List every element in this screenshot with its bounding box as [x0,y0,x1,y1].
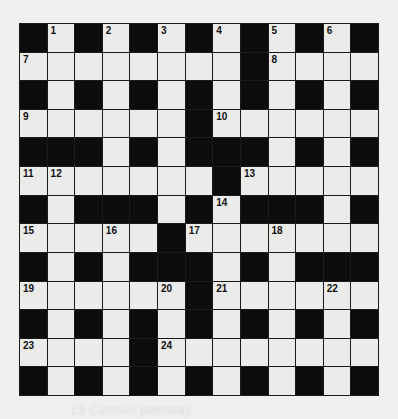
answer-cell[interactable]: 2 [103,24,130,52]
answer-cell[interactable] [324,339,351,367]
answer-cell[interactable]: 22 [324,282,351,310]
answer-cell[interactable] [269,310,296,338]
answer-cell[interactable] [351,282,378,310]
answer-cell[interactable] [48,53,75,81]
answer-cell[interactable] [324,310,351,338]
answer-cell[interactable] [324,53,351,81]
answer-cell[interactable] [351,224,378,252]
answer-cell[interactable] [213,253,240,281]
answer-cell[interactable]: 9 [20,110,47,138]
answer-cell[interactable] [75,110,102,138]
answer-cell[interactable]: 23 [20,339,47,367]
answer-cell[interactable] [48,339,75,367]
answer-cell[interactable] [213,81,240,109]
answer-cell[interactable] [48,367,75,395]
answer-cell[interactable] [269,110,296,138]
answer-cell[interactable] [158,110,185,138]
answer-cell[interactable] [186,339,213,367]
answer-cell[interactable] [158,138,185,166]
answer-cell[interactable] [48,224,75,252]
answer-cell[interactable] [103,81,130,109]
answer-cell[interactable] [324,196,351,224]
answer-cell[interactable] [269,367,296,395]
answer-cell[interactable] [296,339,323,367]
answer-cell[interactable]: 8 [269,53,296,81]
answer-cell[interactable] [48,310,75,338]
answer-cell[interactable] [296,110,323,138]
answer-cell[interactable] [269,339,296,367]
answer-cell[interactable] [48,253,75,281]
answer-cell[interactable] [103,138,130,166]
answer-cell[interactable] [213,53,240,81]
answer-cell[interactable] [213,224,240,252]
answer-cell[interactable] [130,224,157,252]
answer-cell[interactable] [158,81,185,109]
answer-cell[interactable] [103,282,130,310]
answer-cell[interactable] [158,367,185,395]
answer-cell[interactable] [241,224,268,252]
answer-cell[interactable] [324,167,351,195]
answer-cell[interactable] [296,282,323,310]
answer-cell[interactable] [296,224,323,252]
answer-cell[interactable] [241,110,268,138]
answer-cell[interactable] [103,53,130,81]
answer-cell[interactable]: 16 [103,224,130,252]
answer-cell[interactable] [186,167,213,195]
answer-cell[interactable] [296,53,323,81]
answer-cell[interactable]: 14 [213,196,240,224]
answer-cell[interactable]: 6 [324,24,351,52]
answer-cell[interactable] [158,167,185,195]
answer-cell[interactable] [75,339,102,367]
answer-cell[interactable] [351,167,378,195]
answer-cell[interactable] [213,339,240,367]
answer-cell[interactable]: 11 [20,167,47,195]
answer-cell[interactable] [241,282,268,310]
answer-cell[interactable] [103,339,130,367]
answer-cell[interactable]: 13 [241,167,268,195]
answer-cell[interactable] [241,339,268,367]
answer-cell[interactable]: 17 [186,224,213,252]
answer-cell[interactable]: 3 [158,24,185,52]
answer-cell[interactable] [351,339,378,367]
answer-cell[interactable] [103,310,130,338]
answer-cell[interactable] [324,138,351,166]
answer-cell[interactable]: 1 [48,24,75,52]
answer-cell[interactable] [186,53,213,81]
answer-cell[interactable] [75,167,102,195]
answer-cell[interactable] [48,110,75,138]
answer-cell[interactable] [158,310,185,338]
answer-cell[interactable]: 5 [269,24,296,52]
answer-cell[interactable]: 18 [269,224,296,252]
answer-cell[interactable] [130,167,157,195]
answer-cell[interactable]: 4 [213,24,240,52]
answer-cell[interactable] [269,282,296,310]
answer-cell[interactable]: 15 [20,224,47,252]
answer-cell[interactable] [130,282,157,310]
answer-cell[interactable] [324,81,351,109]
answer-cell[interactable] [103,167,130,195]
answer-cell[interactable] [158,53,185,81]
answer-cell[interactable] [269,253,296,281]
answer-cell[interactable]: 7 [20,53,47,81]
answer-cell[interactable] [103,110,130,138]
answer-cell[interactable]: 21 [213,282,240,310]
answer-cell[interactable] [75,53,102,81]
answer-cell[interactable] [75,224,102,252]
answer-cell[interactable] [48,282,75,310]
answer-cell[interactable] [48,196,75,224]
answer-cell[interactable] [296,167,323,195]
answer-cell[interactable] [269,138,296,166]
answer-cell[interactable]: 10 [213,110,240,138]
answer-cell[interactable] [130,110,157,138]
answer-cell[interactable] [213,310,240,338]
answer-cell[interactable] [324,224,351,252]
answer-cell[interactable] [75,282,102,310]
answer-cell[interactable] [158,196,185,224]
answer-cell[interactable] [103,367,130,395]
answer-cell[interactable] [213,367,240,395]
answer-cell[interactable] [269,167,296,195]
answer-cell[interactable]: 19 [20,282,47,310]
answer-cell[interactable] [324,110,351,138]
answer-cell[interactable] [269,81,296,109]
answer-cell[interactable]: 24 [158,339,185,367]
